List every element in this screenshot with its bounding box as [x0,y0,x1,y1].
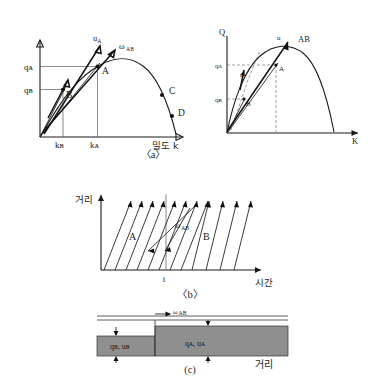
panel-a-point-b [61,88,65,92]
panel-b-caption: 〈b〉 [155,286,225,301]
panel-b-trajectories-region-b [192,201,253,270]
panel-a-label-ua: uA [93,33,101,44]
panel-b-trajectories-region-a [104,201,210,270]
panel-ar-ray-oa [228,63,278,132]
panel-ar-label-b: B [246,100,251,108]
panel-a-ytick-qb: qʙ [24,85,33,95]
panel-a-right-chart: Q K qᴀ qʙ A B u u AB [200,10,375,150]
panel-b-xaxis-label: 시간 [255,277,273,288]
panel-c-left-arrowhead-up [114,356,119,361]
panel-a-right-svg: Q K qᴀ qʙ A B u u AB [200,10,375,150]
panel-b-xtick-t: t [163,274,166,284]
panel-a-svg: A B C D qᴀ qʙ kʙ kᴀ 밀도 k uA ωAB [0,10,200,150]
panel-c-chart: ωAB qʙ, uʙ qᴀ, uᴀ 거리 [75,310,315,372]
panel-b-chart: 거리 시간 t A B ωAB [75,178,315,288]
panel-c-label-right: qᴀ, uᴀ [185,339,206,348]
panel-a-point-d [170,114,174,118]
panel-a-point-c [160,93,164,97]
panel-b-svg: 거리 시간 t A B ωAB [75,178,315,288]
panel-ar-label-a: A [279,65,284,73]
panel-ar-label-ub: u [240,71,244,79]
panel-ar-label-ab: AB [298,34,310,44]
panel-ar-point-a [274,63,277,66]
panel-b-y-arrowhead [98,195,104,201]
panel-b-label-omega-ab: ωAB [175,221,189,231]
panel-a-xtick-ka: kᴀ [90,140,100,150]
page-top-text-fragment [4,0,174,9]
panel-ar-ytick-qb: qʙ [215,96,223,104]
panel-a-label-a: A [102,66,109,76]
panel-a-caption: 〈a〉 [118,146,188,161]
panel-a-label-omega-ab: ωAB [119,41,134,52]
panel-c-svg: ωAB qʙ, uʙ qᴀ, uᴀ 거리 [75,310,315,372]
panel-c-right-arrowhead-down [206,321,211,326]
panel-c-left-arrowhead-down [114,331,119,336]
panel-c-axis-label: 거리 [255,359,273,370]
panel-b-x-arrowhead [255,267,261,273]
panel-ar-label-ua: u [277,34,281,42]
panel-c-label-omega-ab: ωAB [173,310,187,316]
panel-ar-xaxis-label: K [352,136,359,146]
panel-b-omega-arrowhead-2 [148,249,155,254]
panel-b-region-label-a: A [129,231,137,242]
panel-a-chart: A B C D qᴀ qʙ kʙ kᴀ 밀도 k uA ωAB [0,10,200,150]
panel-a-label-b: B [66,90,72,100]
panel-ar-flow-density-curve [227,46,334,133]
panel-ar-yaxis-label: Q [219,27,225,37]
panel-b-region-label-b: B [203,231,210,242]
panel-a-label-c: C [169,86,175,96]
panel-c-label-left: qʙ, uʙ [110,342,130,351]
panel-c-block-a [155,326,288,356]
panel-ar-ytick-qa: qᴀ [215,62,223,70]
panel-c-right-arrowhead-up [206,356,211,361]
panel-a-ytick-qa: qᴀ [24,62,34,72]
figure-page: A B C D qᴀ qʙ kʙ kᴀ 밀도 k uA ωAB 〈a〉 [0,0,375,390]
panel-a-label-d: D [178,108,185,118]
panel-b-yaxis-label: 거리 [75,194,93,205]
panel-a-ray-ob [40,86,66,137]
panel-c-caption: (c) [155,364,225,375]
panel-a-xtick-kb: kʙ [55,140,64,150]
panel-ar-tangent-a [228,42,288,130]
panel-a-point-a [96,65,100,69]
